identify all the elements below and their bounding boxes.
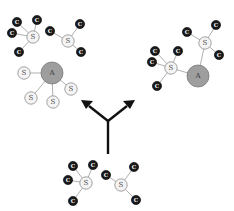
- node-label: A: [194, 72, 201, 80]
- carbon-node: C: [129, 162, 138, 171]
- node-label: C: [153, 48, 158, 54]
- s-node: S: [65, 83, 77, 95]
- node-label: C: [66, 177, 71, 183]
- s-node: S: [199, 37, 211, 49]
- node-label: C: [71, 163, 76, 169]
- node-label: S: [169, 64, 174, 72]
- arrow-left-branch: [89, 106, 108, 121]
- node-label: S: [69, 85, 74, 93]
- carbon-node: C: [173, 46, 182, 55]
- carbon-node: C: [147, 57, 156, 66]
- node-label: C: [185, 29, 190, 35]
- node-label: S: [84, 179, 89, 187]
- carbon-node: C: [12, 17, 21, 26]
- s-node: S: [27, 31, 39, 43]
- node-label: C: [132, 164, 137, 170]
- node-label: C: [15, 19, 20, 25]
- node-label: S: [31, 33, 36, 41]
- s-node: S: [25, 92, 37, 104]
- carbon-node: C: [211, 20, 220, 29]
- carbon-node: C: [45, 26, 54, 35]
- node-label: C: [134, 197, 139, 203]
- s-node: S: [47, 96, 59, 108]
- arrow-right-branch: [108, 106, 127, 121]
- carbon-node: C: [68, 196, 77, 205]
- carbon-node: C: [101, 170, 110, 179]
- carbon-node: C: [7, 28, 16, 37]
- carbon-node: C: [131, 195, 140, 204]
- bonds-layer: [12, 20, 219, 201]
- node-label: A: [48, 69, 55, 77]
- carbon-node: C: [75, 19, 84, 28]
- node-label: S: [119, 181, 124, 189]
- node-label: S: [22, 69, 27, 77]
- node-label: C: [217, 52, 222, 58]
- node-label: C: [91, 162, 96, 168]
- s-node: S: [165, 62, 177, 74]
- node-label: C: [35, 17, 40, 23]
- node-label: C: [48, 28, 53, 34]
- reaction-diagram: SCCCCSCCCASSSSASCCCCSCCCSCCCCSCCC: [0, 0, 234, 211]
- branching-arrow: [81, 100, 135, 154]
- carbon-node: C: [76, 47, 85, 56]
- carbon-node: C: [63, 175, 72, 184]
- s-node: S: [80, 177, 92, 189]
- node-label: C: [10, 30, 15, 36]
- a-node: A: [187, 65, 209, 87]
- node-label: S: [203, 39, 208, 47]
- node-label: C: [150, 59, 155, 65]
- nodes-layer: SCCCCSCCCASSSSASCCCCSCCCSCCCCSCCC: [7, 15, 223, 205]
- carbon-node: C: [68, 161, 77, 170]
- node-label: S: [51, 98, 56, 106]
- s-node: S: [62, 35, 74, 47]
- carbon-node: C: [214, 50, 223, 59]
- carbon-node: C: [182, 27, 191, 36]
- node-label: S: [66, 37, 71, 45]
- carbon-node: C: [32, 15, 41, 24]
- node-label: C: [214, 22, 219, 28]
- node-label: C: [155, 83, 160, 89]
- node-label: C: [176, 48, 181, 54]
- node-label: C: [104, 172, 109, 178]
- carbon-node: C: [14, 47, 23, 56]
- a-node: A: [41, 62, 63, 84]
- carbon-node: C: [88, 160, 97, 169]
- carbon-node: C: [150, 46, 159, 55]
- s-node: S: [18, 67, 30, 79]
- node-label: C: [17, 49, 22, 55]
- carbon-node: C: [152, 81, 161, 90]
- node-label: S: [29, 94, 34, 102]
- node-label: C: [71, 198, 76, 204]
- s-node: S: [115, 179, 127, 191]
- node-label: C: [78, 21, 83, 27]
- node-label: C: [79, 49, 84, 55]
